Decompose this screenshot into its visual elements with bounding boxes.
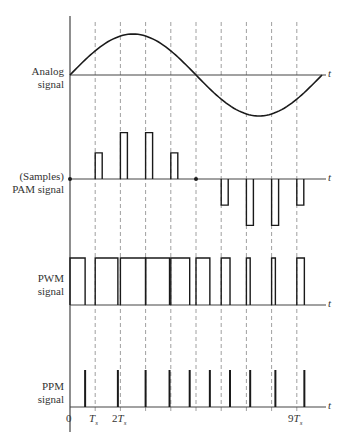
pwm-pulse xyxy=(146,258,170,305)
pwm-pulse xyxy=(95,258,118,305)
tick-text: 0 xyxy=(66,412,72,424)
x-tick-Ts: Ts xyxy=(89,412,98,427)
pwm-waveform xyxy=(70,258,304,305)
ppm-signal-label: PPM signal xyxy=(0,380,64,406)
pwm-pulse xyxy=(272,258,276,305)
pam-sample-pulse xyxy=(146,133,153,179)
label-line: signal xyxy=(0,78,64,91)
pwm-pulse xyxy=(297,258,305,305)
t-axis-label-analog: t xyxy=(328,67,331,79)
x-tick-0: 0 xyxy=(66,412,72,424)
pam-signal-label: (Samples) PAM signal xyxy=(0,170,64,196)
tick-subscript: s xyxy=(95,419,98,427)
pam-sample-pulse xyxy=(246,179,253,225)
x-tick-2Ts: 2Ts xyxy=(112,412,126,427)
pam-sample-pulse xyxy=(221,179,228,205)
t-axis-label-pwm: t xyxy=(328,297,331,309)
label-line: PPM xyxy=(0,380,64,393)
pwm-pulse xyxy=(246,258,250,305)
x-tick-9Ts: 9Ts xyxy=(288,412,302,427)
pam-zero-sample-dot xyxy=(68,177,72,181)
label-line: Analog xyxy=(0,65,64,78)
pwm-pulse xyxy=(221,258,230,305)
pwm-pulse xyxy=(120,258,145,305)
label-line: PWM xyxy=(0,272,64,285)
analog-signal-label: Analog signal xyxy=(0,65,64,91)
label-line: signal xyxy=(0,393,64,406)
pam-sample-pulse xyxy=(297,179,304,205)
t-axis-label-pam: t xyxy=(328,171,331,183)
tick-subscript: s xyxy=(124,419,127,427)
tick-subscript: s xyxy=(300,419,303,427)
pam-sample-pulse xyxy=(272,179,279,225)
pam-sample-pulse xyxy=(95,153,102,179)
pwm-signal-label: PWM signal xyxy=(0,272,64,298)
pwm-pulse xyxy=(196,258,210,305)
label-line: signal xyxy=(0,285,64,298)
sample-instant-gridlines xyxy=(95,22,297,412)
pam-sample-pulse xyxy=(120,133,127,179)
pam-sample-pulse xyxy=(171,153,178,179)
label-line: PAM signal xyxy=(0,183,64,196)
pam-zero-sample-dot xyxy=(194,177,198,181)
pwm-pulse xyxy=(70,258,85,305)
label-line: (Samples) xyxy=(0,170,64,183)
time-axes xyxy=(70,75,326,407)
pwm-pulse xyxy=(171,258,190,305)
t-axis-label-ppm: t xyxy=(328,399,331,411)
